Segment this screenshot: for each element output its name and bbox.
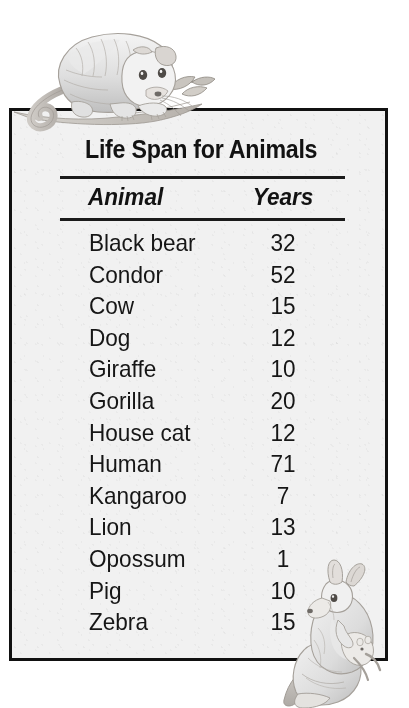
table-row: Black bear32: [60, 227, 345, 259]
cell-years: 12: [270, 324, 295, 352]
cell-years: 7: [277, 482, 290, 510]
cell-animal: Pig: [89, 577, 122, 605]
table-row: Lion13: [60, 511, 345, 543]
cell-years: 32: [270, 229, 295, 257]
table-row: Gorilla20: [60, 385, 345, 417]
table-header-row: Animal Years: [60, 183, 345, 216]
header-rule-top: [60, 176, 345, 179]
cell-years: 71: [270, 450, 295, 478]
cell-animal: Dog: [89, 324, 130, 352]
life-span-table-card: Life Span for Animals Animal Years Black…: [9, 108, 388, 661]
table-row: House cat12: [60, 417, 345, 449]
cell-animal: Kangaroo: [89, 482, 187, 510]
table-row: Kangaroo7: [60, 480, 345, 512]
cell-animal: Lion: [89, 513, 132, 541]
cell-animal: Cow: [89, 292, 134, 320]
cell-years: 10: [270, 577, 295, 605]
table-row: Giraffe10: [60, 353, 345, 385]
header-rule-bottom: [60, 218, 345, 221]
cell-animal: Gorilla: [89, 387, 154, 415]
table-row: Pig10: [60, 575, 345, 607]
cell-animal: Black bear: [89, 229, 196, 257]
cell-animal: Zebra: [89, 608, 148, 636]
table-body: Black bear32Condor52Cow15Dog12Giraffe10G…: [60, 227, 345, 638]
cell-years: 52: [270, 261, 295, 289]
column-header-years-label: Years: [253, 183, 314, 211]
table-row: Dog12: [60, 322, 345, 354]
cell-years: 12: [270, 419, 295, 447]
table-row: Opossum1: [60, 543, 345, 575]
cell-animal: Condor: [89, 261, 163, 289]
cell-animal: Opossum: [89, 545, 186, 573]
table-row: Cow15: [60, 290, 345, 322]
cell-animal: Human: [89, 450, 162, 478]
cell-years: 1: [277, 545, 290, 573]
column-header-animal: Animal: [88, 183, 163, 211]
table-row: Condor52: [60, 259, 345, 291]
cell-animal: House cat: [89, 419, 191, 447]
cell-years: 13: [270, 513, 295, 541]
table-title: Life Span for Animals: [85, 135, 317, 164]
cell-years: 10: [270, 355, 295, 383]
cell-years: 15: [270, 608, 295, 636]
cell-years: 15: [270, 292, 295, 320]
cell-years: 20: [270, 387, 295, 415]
cell-animal: Giraffe: [89, 355, 156, 383]
table-row: Human71: [60, 448, 345, 480]
page-canvas: Life Span for Animals Animal Years Black…: [0, 0, 409, 708]
table-row: Zebra15: [60, 606, 345, 638]
